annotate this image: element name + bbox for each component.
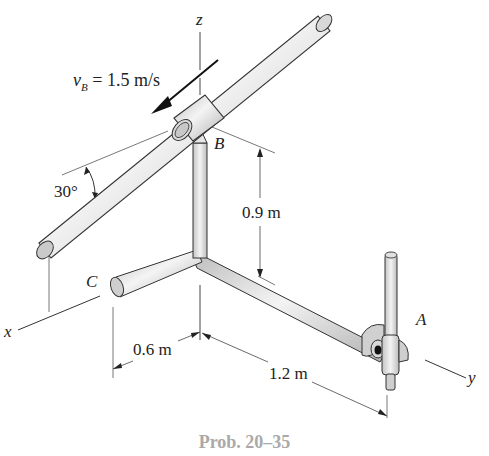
point-b-label: B (214, 134, 224, 154)
diagram-canvas: z x y vB = 1.5 m/s B C A 30° 0.9 m 0.6 m… (0, 0, 489, 456)
joint-a (362, 252, 408, 390)
x-offset-dimension-label: 0.6 m (133, 340, 172, 360)
z-axis-label: z (196, 10, 203, 30)
vertical-post (193, 143, 207, 258)
velocity-label: vB = 1.5 m/s (73, 70, 160, 93)
x-axis (18, 296, 100, 330)
arm-x-rod (116, 250, 202, 297)
point-c-label: C (86, 272, 97, 292)
x-axis-label: x (4, 322, 12, 342)
mechanism-drawing (0, 0, 489, 456)
arm-y-rod (193, 253, 387, 362)
height-dimension-label: 0.9 m (242, 203, 281, 223)
y-axis-label: y (468, 368, 476, 388)
angle-label: 30° (54, 182, 78, 202)
y-axis (425, 360, 466, 378)
y-length-dimension-label: 1.2 m (269, 364, 308, 384)
point-a-label: A (416, 310, 426, 330)
figure-caption: Prob. 20–35 (0, 432, 489, 453)
